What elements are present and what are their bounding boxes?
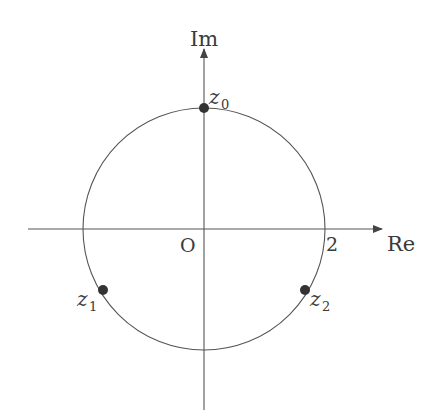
svg-text:z: z [208, 85, 220, 109]
svg-text:0: 0 [221, 97, 229, 112]
re-axis-label: Re [387, 232, 415, 256]
point-z1 [98, 285, 108, 295]
svg-text:z: z [76, 287, 88, 311]
svg-text:1: 1 [89, 299, 97, 314]
tick-label-2: 2 [326, 233, 338, 255]
svg-text:z: z [309, 287, 321, 311]
label-z1: z 1 [76, 287, 97, 314]
origin-label: O [180, 234, 196, 256]
label-z0: z 0 [208, 85, 229, 112]
im-axis-label: Im [190, 27, 218, 51]
svg-text:2: 2 [322, 299, 330, 314]
point-z0 [199, 103, 209, 113]
point-z2 [300, 285, 310, 295]
label-z2: z 2 [309, 287, 330, 314]
complex-plane-diagram: Im Re O 2 z 0 z 1 z 2 [0, 0, 432, 419]
